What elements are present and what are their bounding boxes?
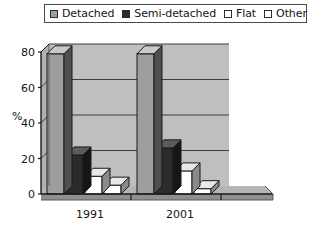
bar-side bbox=[154, 46, 162, 194]
y-tick-label: 40 bbox=[21, 117, 35, 130]
legend-label-semi-detached: Semi-detached bbox=[134, 8, 216, 19]
legend-swatch-flat bbox=[224, 10, 232, 18]
legend-item-flat: Flat bbox=[224, 8, 256, 19]
y-axis-title: % bbox=[12, 110, 22, 123]
y-tick-label: 20 bbox=[21, 153, 35, 166]
x-tick-label: 1991 bbox=[76, 208, 104, 221]
legend-label-flat: Flat bbox=[236, 8, 256, 19]
chart-legend: Detached Semi-detached Flat Other bbox=[44, 4, 307, 23]
y-axis-ticks: 020406080 bbox=[21, 46, 41, 201]
legend-item-other: Other bbox=[264, 8, 307, 19]
bar-detached-1991 bbox=[47, 46, 72, 194]
legend-swatch-semi-detached bbox=[122, 10, 130, 18]
y-tick-label: 0 bbox=[28, 188, 35, 201]
legend-item-semi-detached: Semi-detached bbox=[122, 8, 216, 19]
plot-floor-front bbox=[41, 194, 273, 200]
legend-label-detached: Detached bbox=[62, 8, 114, 19]
bar-side bbox=[173, 140, 181, 194]
plot-svg: 020406080 19912001 % bbox=[0, 26, 314, 230]
bar-detached-2001 bbox=[137, 46, 162, 194]
bar-face bbox=[137, 54, 154, 194]
legend-item-detached: Detached bbox=[50, 8, 114, 19]
y-tick-label: 60 bbox=[21, 82, 35, 95]
plot-area: 020406080 19912001 % bbox=[0, 26, 314, 230]
bar-side bbox=[64, 46, 72, 194]
bar-face bbox=[47, 54, 64, 194]
y-tick-label: 80 bbox=[21, 46, 35, 59]
bar-chart: Detached Semi-detached Flat Other 020406… bbox=[0, 0, 314, 230]
legend-swatch-detached bbox=[50, 10, 58, 18]
x-tick-label: 2001 bbox=[166, 208, 194, 221]
legend-swatch-other bbox=[264, 10, 272, 18]
legend-label-other: Other bbox=[276, 8, 307, 19]
